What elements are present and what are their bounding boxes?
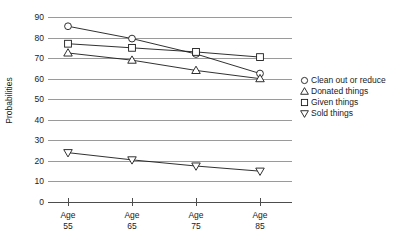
data-point xyxy=(129,44,136,51)
series-triangle-down xyxy=(64,150,265,176)
legend-item[interactable]: Given things xyxy=(299,97,403,108)
data-point xyxy=(65,23,72,30)
data-point xyxy=(64,49,73,56)
legend-item-label: Sold things xyxy=(311,108,353,119)
data-point xyxy=(193,49,200,56)
data-point xyxy=(129,35,136,42)
data-point xyxy=(257,54,264,61)
legend-item-label: Clean out or reduce xyxy=(311,75,386,86)
series-layer xyxy=(0,0,405,249)
data-point xyxy=(256,168,265,175)
data-point xyxy=(65,40,72,47)
legend-triangle-down-icon xyxy=(299,108,310,119)
legend-item-label: Given things xyxy=(311,97,358,108)
legend-square-icon xyxy=(299,97,310,108)
chart-figure: Probabilities 0102030405060708090 Age55A… xyxy=(0,0,405,249)
chart-legend: Clean out or reduceDonated thingsGiven t… xyxy=(299,75,403,119)
series-line xyxy=(68,53,260,79)
legend-circle-icon xyxy=(299,75,310,86)
legend-item[interactable]: Donated things xyxy=(299,86,403,97)
series-line xyxy=(68,153,260,172)
series-line xyxy=(68,44,260,57)
legend-item[interactable]: Clean out or reduce xyxy=(299,75,403,86)
legend-item[interactable]: Sold things xyxy=(299,108,403,119)
legend-item-label: Donated things xyxy=(311,86,368,97)
legend-triangle-up-icon xyxy=(299,86,310,97)
series-square xyxy=(65,40,264,60)
